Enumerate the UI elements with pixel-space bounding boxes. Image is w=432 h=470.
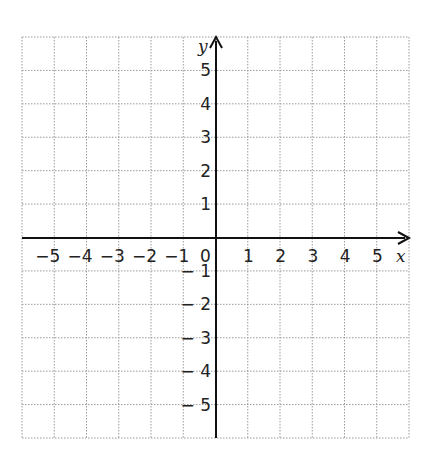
y-tick-label: − 3 [181, 328, 211, 348]
x-tick-label: 5 [372, 246, 383, 266]
x-tick-label: −4 [67, 246, 92, 266]
y-tick-label: − 4 [181, 361, 211, 381]
y-tick-label: − 2 [181, 294, 211, 314]
y-tick-label: 3 [200, 127, 211, 147]
y-axis-label: y [197, 36, 208, 56]
coordinate-plane: −5−4−3−2−11234554321− 1− 2− 3− 4− 5 x y … [0, 0, 432, 470]
origin-label: 0 [200, 246, 211, 266]
y-tick-label: − 5 [181, 395, 211, 415]
y-tick-label: 1 [200, 194, 211, 214]
axes [22, 37, 409, 438]
x-axis-label: x [396, 246, 406, 266]
x-tick-label: 1 [243, 246, 254, 266]
y-tick-label: 2 [200, 161, 211, 181]
x-tick-label: 3 [307, 246, 318, 266]
x-tick-label: 2 [275, 246, 286, 266]
x-tick-label: −3 [100, 246, 125, 266]
x-tick-label: −2 [132, 246, 157, 266]
y-tick-label: 5 [200, 60, 211, 80]
x-tick-label: 4 [340, 246, 351, 266]
y-tick-label: 4 [200, 94, 211, 114]
x-tick-label: −5 [35, 246, 60, 266]
